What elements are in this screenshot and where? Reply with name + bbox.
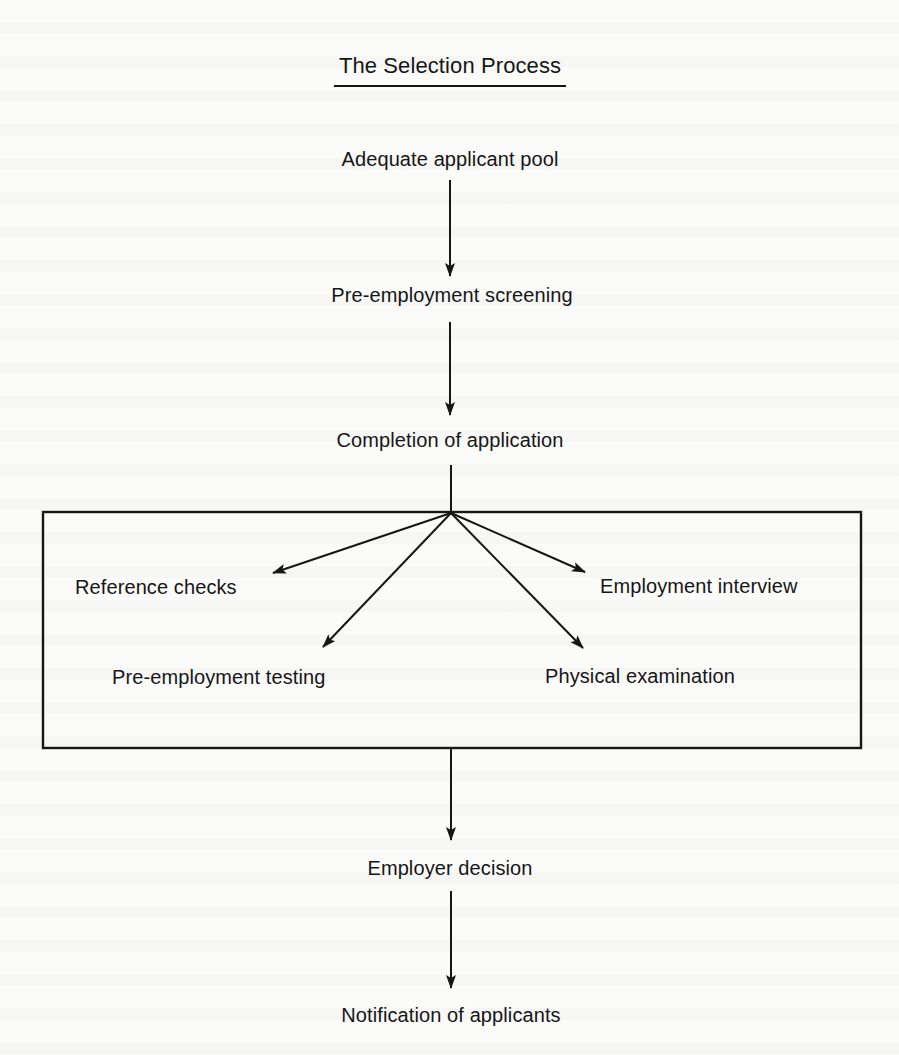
arrow-to-physical-examination — [451, 513, 583, 648]
node-completion-of-application: Completion of application — [336, 428, 563, 452]
node-adequate-applicant-pool: Adequate applicant pool — [342, 147, 559, 171]
parallel-activities-box — [43, 512, 861, 748]
node-employer-decision: Employer decision — [367, 856, 532, 880]
node-pre-employment-testing: Pre-employment testing — [112, 665, 325, 689]
node-physical-examination: Physical examination — [545, 664, 735, 688]
diagram-page: The Selection Process Adequate applicant… — [0, 0, 899, 1055]
node-employment-interview: Employment interview — [600, 574, 798, 598]
diagram-title: The Selection Process — [339, 52, 561, 80]
arrow-to-employment-interview — [451, 513, 585, 572]
node-reference-checks: Reference checks — [75, 575, 237, 599]
node-notification-of-applicants: Notification of applicants — [341, 1003, 560, 1027]
arrow-to-reference-checks — [273, 513, 451, 573]
node-pre-employment-screening: Pre-employment screening — [331, 283, 572, 307]
arrow-to-pre-employment-testing — [323, 513, 451, 647]
